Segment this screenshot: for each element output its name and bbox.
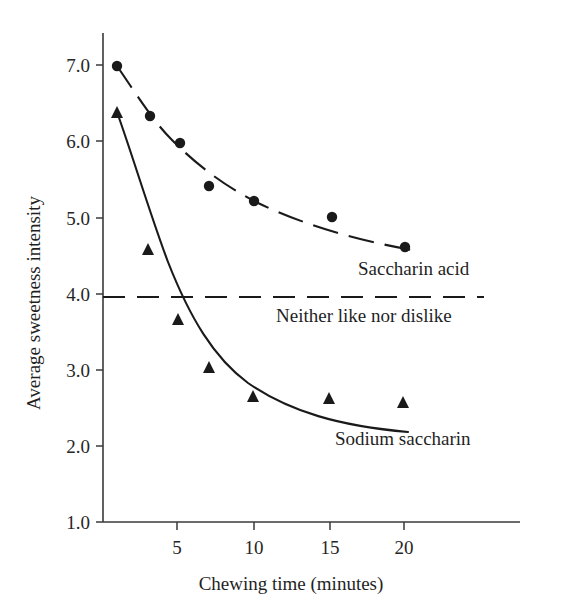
data-point-triangle (203, 361, 215, 373)
y-tick-label-2: 2.0 (66, 436, 90, 457)
annotation-neither-like-nor-dislike: Neither like nor dislike (276, 305, 452, 326)
annotation-saccharin-acid: Saccharin acid (358, 258, 470, 279)
x-tick-label-5: 5 (172, 537, 182, 558)
data-point-triangle (323, 392, 335, 404)
y-tick-label-6: 6.0 (66, 131, 90, 152)
annotation-sodium-saccharin: Sodium saccharin (335, 428, 471, 449)
data-point-circle (249, 196, 259, 206)
x-tick-label-15: 15 (321, 537, 340, 558)
data-point-triangle (247, 390, 259, 402)
sweetness-intensity-chart: 7.0 6.0 5.0 4.0 3.0 2.0 1.0 5 10 15 20 C… (0, 0, 575, 612)
y-tick-labels: 7.0 6.0 5.0 4.0 3.0 2.0 1.0 (66, 55, 90, 533)
data-point-triangle (397, 396, 409, 408)
x-tick-label-20: 20 (395, 537, 414, 558)
chart-container: 7.0 6.0 5.0 4.0 3.0 2.0 1.0 5 10 15 20 C… (0, 0, 575, 612)
data-point-triangle (142, 243, 154, 255)
data-point-circle (204, 181, 214, 191)
data-point-circle (327, 212, 337, 222)
series-sodium-saccharin-markers (111, 106, 409, 408)
data-point-circle (112, 61, 122, 71)
x-axis-title: Chewing time (minutes) (199, 573, 384, 595)
y-tick-marks (96, 65, 103, 522)
data-point-circle (400, 242, 410, 252)
y-tick-label-3: 3.0 (66, 360, 90, 381)
x-tick-label-10: 10 (245, 537, 264, 558)
data-point-circle (145, 111, 155, 121)
x-tick-marks (177, 522, 404, 530)
y-tick-label-5: 5.0 (66, 208, 90, 229)
data-point-triangle (172, 313, 184, 325)
y-axis-title: Average sweetness intensity (23, 196, 44, 410)
fit-curve-saccharin-acid (117, 66, 412, 250)
x-tick-labels: 5 10 15 20 (172, 537, 413, 558)
y-tick-label-7: 7.0 (66, 55, 90, 76)
series-saccharin-acid-markers (112, 61, 410, 252)
data-point-triangle (111, 106, 123, 118)
y-tick-label-4: 4.0 (66, 284, 90, 305)
data-point-circle (175, 138, 185, 148)
y-tick-label-1: 1.0 (66, 512, 90, 533)
